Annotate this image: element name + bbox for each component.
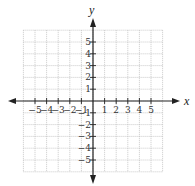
x-tick-label: 1 [102,105,108,115]
y-tick-label: −3 [78,131,92,141]
y-tick-label: −5 [78,155,92,165]
y-tick-label: −2 [78,120,91,130]
x-axis-label: x [183,94,190,108]
y-tick-label: 1 [85,84,91,94]
y-axis-label: y [88,3,95,17]
y-tick-label: −1 [78,108,91,118]
y-tick-label: 2 [85,72,91,82]
arrow-right-icon [172,98,180,104]
arrow-down-icon [90,175,96,184]
x-tick-label: 3 [125,105,131,115]
arrow-left-icon [8,98,16,104]
x-tick-label: 2 [113,105,119,115]
y-tick-label: 5 [85,37,91,47]
arrow-up-icon [90,18,96,27]
y-tick-label: −4 [78,143,92,153]
x-tick-label: 5 [148,105,154,115]
coordinate-plane: −5−4−3−2−11234554321−1−2−3−4−5 x y [0,0,195,186]
y-tick-label: 4 [85,49,91,59]
y-tick-label: 3 [85,61,91,71]
x-tick-label: 4 [137,105,143,115]
axes [8,18,180,184]
